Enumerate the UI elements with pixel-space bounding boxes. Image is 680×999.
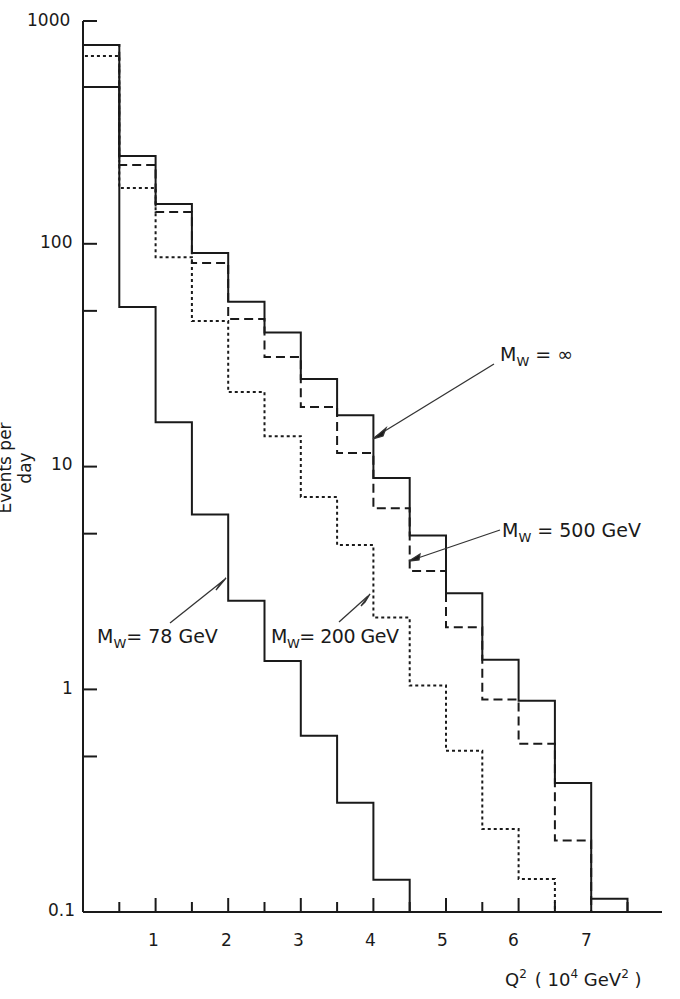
x-tick-4: 4 xyxy=(365,930,376,950)
ann-500-val: = 500 GeV xyxy=(531,519,641,541)
x-tick-6: 6 xyxy=(508,930,519,950)
x-axis-title: Q2( 104 GeV2 ) xyxy=(505,967,642,990)
series-group xyxy=(83,45,628,912)
x-axis-q-exp: 2 xyxy=(519,967,527,981)
x-axis-unit-exp1: 4 xyxy=(570,967,578,981)
ann-78-val: = 78 GeV xyxy=(126,625,218,647)
arrowhead-m-200 xyxy=(361,594,370,606)
annotation-arrows xyxy=(170,364,500,623)
ann-200-val: = 200 GeV xyxy=(299,625,398,647)
y-tick-1000: 1000 xyxy=(27,10,70,30)
arrow-m-78 xyxy=(170,580,224,623)
x-tick-1: 1 xyxy=(148,930,159,950)
annotation-m-500: MW = 500 GeV xyxy=(502,519,641,545)
y-axis-title: Events per day xyxy=(0,413,35,523)
ann-500-m: M xyxy=(502,519,518,541)
annotation-m-200: MW= 200 GeV xyxy=(271,625,398,651)
arrow-m-500 xyxy=(412,530,500,560)
arrowhead-m-500 xyxy=(409,554,420,561)
ann-200-sub: W xyxy=(287,636,299,651)
arrowhead-m-inf xyxy=(373,428,386,439)
annotation-m-78: MW= 78 GeV xyxy=(97,625,218,651)
arrowhead-m-78 xyxy=(216,578,226,590)
y-tick-0.1: 0.1 xyxy=(48,900,75,920)
x-tick-2: 2 xyxy=(221,930,232,950)
ann-78-sub: W xyxy=(113,636,126,651)
series-m-78 xyxy=(83,87,410,912)
arrow-m-200 xyxy=(339,596,368,622)
ann-78-m: M xyxy=(97,625,113,647)
x-tick-5: 5 xyxy=(437,930,448,950)
x-axis-unit-exp2: 2 xyxy=(621,967,629,981)
x-tick-3: 3 xyxy=(293,930,304,950)
x-axis-unit-pre: ( 10 xyxy=(535,969,571,990)
x-axis-q: Q xyxy=(505,969,519,990)
x-axis-unit-post: ) xyxy=(629,969,642,990)
ann-500-sub: W xyxy=(518,530,531,545)
series-m-inf xyxy=(83,45,628,912)
x-axis-unit-mid: GeV xyxy=(578,969,621,990)
arrow-m-inf xyxy=(375,364,494,437)
annotation-m-inf: MW = ∞ xyxy=(500,343,573,369)
ann-inf-m: M xyxy=(500,343,516,365)
y-tick-10: 10 xyxy=(51,454,73,474)
series-m-200 xyxy=(83,56,555,912)
ann-inf-val: = ∞ xyxy=(529,343,573,365)
x-tick-7: 7 xyxy=(581,930,592,950)
ann-200-m: M xyxy=(271,625,287,647)
ann-inf-sub: W xyxy=(516,354,529,369)
y-tick-1: 1 xyxy=(62,678,73,698)
histogram-chart xyxy=(0,0,680,999)
y-tick-100: 100 xyxy=(40,232,72,252)
